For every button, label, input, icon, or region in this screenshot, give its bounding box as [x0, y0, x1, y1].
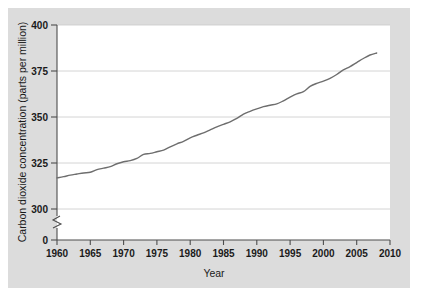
ytick-label-350: 350 [31, 112, 48, 123]
xtick-label-2005: 2005 [346, 248, 369, 259]
y-axis-title: Carbon dioxide concentration (parts per … [16, 22, 28, 243]
y-axis-ticks [51, 25, 57, 240]
xtick-label-1970: 1970 [112, 248, 135, 259]
xtick-label-1995: 1995 [279, 248, 302, 259]
ytick-label-0: 0 [42, 235, 48, 246]
x-axis-tick-labels: 1960 1965 1970 1975 1980 1985 1990 1995 … [46, 248, 402, 259]
xtick-label-2010: 2010 [379, 248, 402, 259]
co2-line-chart: 400 375 350 325 300 0 1960 1965 1970 [0, 0, 421, 301]
xtick-label-1985: 1985 [212, 248, 235, 259]
x-axis-ticks [57, 240, 390, 245]
ytick-label-375: 375 [31, 66, 48, 77]
xtick-label-2000: 2000 [312, 248, 335, 259]
ytick-label-400: 400 [31, 20, 48, 31]
xtick-label-1960: 1960 [46, 248, 69, 259]
xtick-label-1975: 1975 [146, 248, 169, 259]
xtick-label-1990: 1990 [246, 248, 269, 259]
figure-container: 400 375 350 325 300 0 1960 1965 1970 [0, 0, 421, 301]
xtick-label-1965: 1965 [79, 248, 102, 259]
xtick-label-1980: 1980 [179, 248, 202, 259]
plot-area-background [57, 25, 390, 240]
y-axis-tick-labels: 400 375 350 325 300 0 [31, 20, 48, 246]
ytick-label-325: 325 [31, 158, 48, 169]
ytick-label-300: 300 [31, 204, 48, 215]
x-axis-title: Year [203, 267, 225, 279]
